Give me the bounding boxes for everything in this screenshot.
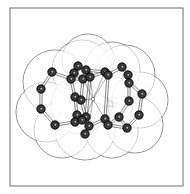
atom-highlight — [118, 116, 120, 118]
atom — [86, 73, 94, 81]
atom-highlight — [40, 108, 42, 110]
molecule-diagram — [0, 0, 190, 194]
atom-highlight — [84, 133, 86, 135]
atom-highlight — [51, 71, 53, 73]
atom-highlight — [89, 76, 91, 78]
molecular-surface-figure — [0, 0, 190, 194]
atom — [81, 130, 89, 138]
atom-highlight — [121, 66, 123, 68]
atom — [115, 113, 123, 121]
atom-highlight — [128, 100, 130, 102]
atom-highlight — [77, 65, 79, 67]
atom-highlight — [104, 118, 106, 120]
atom-highlight — [73, 72, 75, 74]
atom — [85, 122, 93, 130]
atom-highlight — [138, 114, 140, 116]
atom — [51, 121, 59, 129]
atom-highlight — [74, 121, 76, 123]
atom-highlight — [85, 69, 87, 71]
atom-highlight — [141, 93, 143, 95]
atom — [118, 63, 126, 71]
atom-highlight — [128, 82, 130, 84]
atom-highlight — [76, 114, 78, 116]
atom — [104, 121, 112, 129]
atom — [135, 111, 143, 119]
atom — [77, 96, 85, 104]
atom-highlight — [80, 99, 82, 101]
atom-highlight — [127, 74, 129, 76]
atom-highlight — [126, 127, 128, 129]
atom — [124, 71, 132, 79]
atom — [123, 124, 131, 132]
atom — [48, 68, 56, 76]
atom — [104, 71, 112, 79]
atom-highlight — [74, 96, 76, 98]
atom — [78, 116, 86, 124]
atom-highlight — [82, 78, 84, 80]
atom-highlight — [70, 78, 72, 80]
small-atom — [91, 97, 94, 100]
atom-highlight — [81, 119, 83, 121]
atom — [125, 79, 133, 87]
atom-highlight — [40, 88, 42, 90]
atom-highlight — [88, 125, 90, 127]
atom-highlight — [54, 124, 56, 126]
atom — [37, 85, 45, 93]
atom-highlight — [107, 74, 109, 76]
atom — [138, 90, 146, 98]
atom-highlight — [107, 124, 109, 126]
atom — [125, 97, 133, 105]
atom — [67, 75, 75, 83]
atom — [37, 105, 45, 113]
